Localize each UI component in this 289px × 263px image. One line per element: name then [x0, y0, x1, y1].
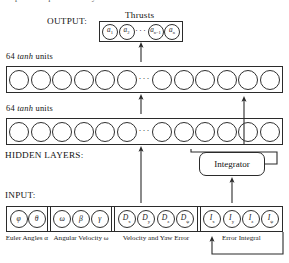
hidden-layers-section-label: HIDDEN LAYERS: [5, 150, 83, 160]
hidden-node [52, 70, 72, 90]
node-label: an−1 [150, 27, 161, 36]
ellipsis: ··· [138, 73, 150, 86]
node-label: φ [16, 215, 20, 223]
ellipsis: ··· [135, 25, 147, 38]
hidden-node [74, 122, 94, 142]
ellipsis: ··· [138, 125, 150, 138]
node-label: Iψ [268, 214, 273, 224]
hidden-layer-2-box: ··· [6, 66, 283, 93]
hidden-node [174, 122, 194, 142]
input-node: Iy [223, 210, 241, 228]
input-group-box: φθ [6, 206, 48, 232]
output-node: an [164, 24, 180, 40]
output-node: a1 [102, 24, 118, 40]
node-label: Iy [229, 214, 234, 224]
hidden-node [31, 70, 51, 90]
node-label: an [169, 27, 175, 36]
hidden-layer-2-label: 64 tanh units [6, 52, 53, 61]
node-label: Dy [142, 214, 150, 224]
hidden-node [260, 122, 280, 142]
input-group-node-row: ωβγ [51, 207, 112, 231]
hidden-layer-2-units-word: units [35, 52, 53, 61]
input-node: Ix [203, 210, 221, 228]
input-group-caption: Angular Velocity ω [53, 234, 108, 242]
hidden-node [152, 70, 172, 90]
node-label: Dx [123, 214, 131, 224]
hidden-node [260, 70, 280, 90]
cut-off-text: adapt to the quadrotor's dynamics and th… [3, 0, 194, 2]
hidden-node [195, 122, 215, 142]
input-node: θ [28, 210, 46, 228]
node-label: γ [98, 215, 101, 223]
hidden-node [74, 70, 94, 90]
input-group-node-row: φθ [7, 207, 47, 231]
output-section-label: OUTPUT: [47, 16, 87, 26]
input-group-caption: Euler Angles α [6, 234, 48, 242]
hidden-node [217, 70, 237, 90]
hidden-node [217, 122, 237, 142]
hidden-node [238, 122, 258, 142]
input-section-label: INPUT: [5, 190, 36, 200]
hidden-layer-2-count: 64 [6, 52, 15, 61]
input-group-box: DxDyDzDψ [114, 206, 197, 232]
input-node: Dψ [176, 210, 194, 228]
hidden-layer-2-activation: tanh [17, 52, 33, 61]
input-group-node-row: IxIyIzIψ [201, 207, 282, 231]
node-label: Ix [210, 214, 215, 224]
output-node: a2 [119, 24, 135, 40]
input-node: Iz [242, 210, 260, 228]
input-group-node-row: DxDyDzDψ [115, 207, 196, 231]
node-label: Dψ [181, 214, 189, 224]
hidden-layer-1-node-row: ··· [7, 119, 282, 144]
hidden-node [9, 122, 29, 142]
input-group-caption: Error Integral [222, 234, 261, 242]
hidden-node [31, 122, 51, 142]
input-group-box: IxIyIzIψ [200, 206, 283, 232]
node-label: β [79, 215, 83, 223]
output-node: an−1 [148, 24, 164, 40]
output-node-row: a1a2···an−1an [100, 22, 182, 41]
node-label: Dz [162, 214, 170, 224]
output-layer-box: a1a2···an−1an [99, 21, 183, 42]
hidden-node [174, 70, 194, 90]
cut-off-text-strip: adapt to the quadrotor's dynamics and th… [0, 0, 289, 9]
hidden-layer-1-count: 64 [6, 104, 15, 113]
input-node: γ [91, 210, 109, 228]
hidden-layer-2-node-row: ··· [7, 67, 282, 92]
node-label: a2 [124, 27, 130, 36]
input-node: β [72, 210, 90, 228]
hidden-layer-1-activation: tanh [17, 104, 33, 113]
input-node: ω [53, 210, 71, 228]
integrator-label: Integrator [214, 159, 249, 169]
node-label: θ [35, 215, 39, 223]
node-label: Iz [249, 214, 254, 224]
thrusts-label: Thrusts [125, 10, 154, 20]
hidden-node [9, 70, 29, 90]
input-node: Dz [157, 210, 175, 228]
node-label: ω [60, 215, 65, 223]
input-node: φ [10, 210, 28, 228]
hidden-node [195, 70, 215, 90]
hidden-node [238, 70, 258, 90]
input-node: Dx [118, 210, 136, 228]
hidden-layer-1-box: ··· [6, 118, 283, 145]
hidden-node [95, 122, 115, 142]
hidden-node [152, 122, 172, 142]
hidden-node [117, 70, 137, 90]
hidden-node [117, 122, 137, 142]
input-group-caption: Velocity and Yaw Error [123, 234, 190, 242]
input-group-box: ωβγ [50, 206, 113, 232]
hidden-layer-1-label: 64 tanh units [6, 104, 53, 113]
input-node: Dy [137, 210, 155, 228]
input-node: Iψ [261, 210, 279, 228]
hidden-node [95, 70, 115, 90]
hidden-node [52, 122, 72, 142]
node-label: a1 [107, 27, 113, 36]
network-architecture-diagram: adapt to the quadrotor's dynamics and th… [0, 0, 289, 263]
hidden-layer-1-units-word: units [35, 104, 53, 113]
integrator-box: Integrator [199, 152, 265, 176]
